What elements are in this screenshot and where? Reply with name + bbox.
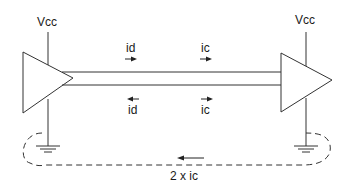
circuit-diagram: Vcc Vcc id ic id ic 2 x ic xyxy=(0,0,348,187)
vcc-right-label: Vcc xyxy=(295,14,315,26)
vcc-left-label: Vcc xyxy=(37,16,57,28)
return-current-label: 2 x ic xyxy=(170,170,198,182)
ground-left-icon xyxy=(36,146,60,152)
bottom-ic-label: ic xyxy=(201,104,210,116)
arrow-left-icon xyxy=(177,156,204,161)
arrow-right-icon xyxy=(201,97,213,102)
arrow-right-icon xyxy=(200,57,212,62)
ground-return-loop xyxy=(23,133,330,166)
arrow-right-icon xyxy=(125,57,137,62)
ground-right-icon xyxy=(294,146,318,152)
arrow-left-icon xyxy=(127,97,139,102)
top-ic-label: ic xyxy=(201,42,210,54)
top-id-label: id xyxy=(126,42,135,54)
bottom-id-label: id xyxy=(128,104,137,116)
